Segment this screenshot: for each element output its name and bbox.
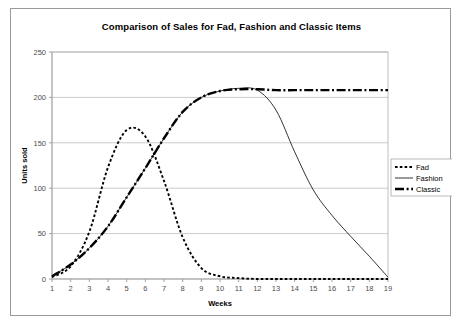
x-tick-label: 4: [106, 284, 110, 293]
x-tick-label: 3: [87, 284, 91, 293]
plot-area-border: [52, 52, 388, 279]
x-tick-label: 11: [235, 284, 243, 293]
x-tick-label: 18: [365, 284, 373, 293]
x-tick-label: 10: [216, 284, 224, 293]
chart-legend: FadFashionClassic: [391, 159, 452, 196]
x-tick-label: 14: [290, 284, 298, 293]
page-background: Comparison of Sales for Fad, Fashion and…: [0, 0, 459, 327]
x-tick-label: 6: [143, 284, 147, 293]
legend-label-fashion: Fashion: [416, 174, 443, 183]
y-axis-tick-labels: 050100150200250: [33, 48, 46, 284]
y-tick-label: 150: [33, 139, 46, 148]
chart-frame: Comparison of Sales for Fad, Fashion and…: [10, 8, 451, 316]
x-tick-label: 5: [125, 284, 129, 293]
x-tick-label: 9: [199, 284, 203, 293]
y-tick-label: 100: [33, 184, 46, 193]
x-tick-label: 8: [181, 284, 185, 293]
data-series-group: [52, 88, 388, 279]
y-axis-title: Units sold: [20, 147, 29, 184]
sales-line-chart: 050100150200250 123456789101112131415161…: [11, 9, 452, 317]
x-tick-label: 16: [328, 284, 336, 293]
series-line-fad: [52, 128, 388, 280]
y-tick-label: 250: [33, 48, 46, 57]
x-tick-label: 12: [253, 284, 261, 293]
y-tick-label: 0: [42, 275, 46, 284]
y-tick-label: 50: [38, 229, 46, 238]
x-axis-title: Weeks: [208, 299, 232, 308]
x-tick-label: 7: [162, 284, 166, 293]
legend-label-fad: Fad: [416, 163, 429, 172]
x-axis-tick-labels: 12345678910111213141516171819: [50, 279, 392, 293]
x-tick-label: 17: [346, 284, 354, 293]
x-tick-label: 1: [50, 284, 54, 293]
x-tick-label: 13: [272, 284, 280, 293]
y-tick-label: 200: [33, 93, 46, 102]
legend-label-classic: Classic: [416, 185, 440, 194]
x-tick-label: 15: [309, 284, 317, 293]
x-tick-label: 2: [69, 284, 73, 293]
x-tick-label: 19: [384, 284, 392, 293]
gridlines: [49, 52, 388, 279]
